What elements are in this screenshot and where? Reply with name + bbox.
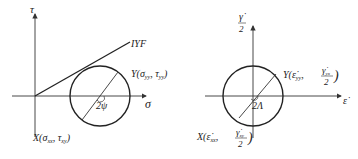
iyf-label: IYF [130, 38, 147, 49]
point-x-label: X(σxx, τxy) [32, 132, 71, 144]
stress-mohr-diagram: τ σ IYF 2ψ Y(σyy, τyy) X(σxx, τxy) [12, 3, 168, 144]
point-y-strain-label: Y(ε̇yy, γ̇yx 2 ) [283, 65, 339, 87]
gamma-axis-num: γ̇ [239, 11, 246, 22]
svg-text:γ̇yx: γ̇yx [322, 65, 331, 76]
epsilon-axis-label: ε̇ [343, 95, 350, 106]
point-y-label: Y(σyy, τyy) [131, 68, 168, 80]
point-x-strain-label: X(ε̇xx, γ̇xy 2 ) [196, 127, 253, 149]
tau-axis-label: τ [30, 3, 35, 15]
diagram-canvas: τ σ IYF 2ψ Y(σyy, τyy) X(σxx, τxy) γ̇ 2 … [0, 0, 358, 159]
gamma-axis-den: 2 [239, 24, 244, 34]
svg-text:): ) [247, 130, 253, 146]
svg-text:Y(ε̇yy,: Y(ε̇yy, [283, 69, 304, 81]
svg-text:γ̇xy: γ̇xy [236, 127, 245, 138]
sigma-axis-label: σ [145, 97, 152, 111]
svg-text:2: 2 [324, 77, 329, 87]
strain-rate-mohr-diagram: γ̇ 2 ε̇ 2Λ Y(ε̇yy, γ̇yx 2 ) X(ε̇xx, γ̇xy… [196, 11, 350, 149]
svg-text:2: 2 [238, 139, 243, 149]
svg-text:X(ε̇xx,: X(ε̇xx, [196, 131, 218, 143]
iyf-line [35, 42, 130, 96]
angle-label-lambda: 2Λ [252, 100, 263, 111]
angle-label-psi: 2ψ [96, 100, 108, 111]
svg-text:): ) [333, 68, 339, 84]
